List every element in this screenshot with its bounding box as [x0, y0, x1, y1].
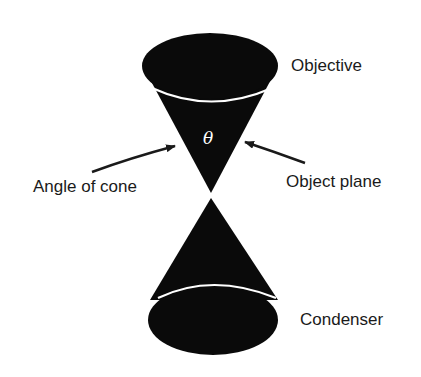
objective-lens-ellipse: [142, 33, 278, 99]
object-plane-arrow: [245, 142, 305, 163]
angle-of-cone-label: Angle of cone: [33, 178, 137, 195]
condenser-cone: [148, 198, 278, 355]
objective-label: Objective: [291, 57, 362, 74]
objective-cone: [142, 33, 278, 193]
condenser-label: Condenser: [300, 311, 383, 328]
theta-symbol: θ: [203, 130, 213, 147]
condenser-lens-ellipse: [148, 285, 278, 355]
object-plane-label: Object plane: [286, 173, 381, 190]
angle-of-cone-arrow: [92, 146, 175, 172]
